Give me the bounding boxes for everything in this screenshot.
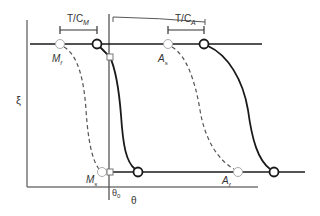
as-marker <box>164 40 173 49</box>
as-label: As <box>157 53 168 66</box>
solid-curve-cooling <box>100 47 135 169</box>
af-marker <box>234 168 243 177</box>
theta0-upper-square <box>107 54 113 60</box>
x-axis-label: θ <box>131 195 137 206</box>
bracket-tca-label: T/CA <box>175 13 196 26</box>
mf-label: Mf <box>52 53 63 66</box>
cooling-start-marker <box>93 40 102 49</box>
theta0-lower-square <box>107 169 113 175</box>
bracket-tcm-label: T/CM <box>67 13 89 26</box>
af-label: Af <box>221 175 232 188</box>
ms-label: Ms <box>86 174 97 187</box>
bracket-tcm <box>60 26 97 34</box>
mf-marker <box>56 40 65 49</box>
cooling-end-marker <box>134 168 143 177</box>
ms-marker <box>98 168 107 177</box>
solid-curve-heating <box>208 46 270 169</box>
heating-start-marker <box>200 40 209 49</box>
hysteresis-diagram: ξ T/CM T/CA Mf Ms As Af θ0 θ <box>0 0 320 216</box>
theta0-label: θ0 <box>112 188 121 199</box>
y-axis-label: ξ <box>16 94 21 106</box>
heating-end-marker <box>270 168 279 177</box>
bracket-tca <box>168 26 204 34</box>
dashed-curve-austenite <box>172 47 234 169</box>
dashed-curve-martensite <box>64 47 99 169</box>
